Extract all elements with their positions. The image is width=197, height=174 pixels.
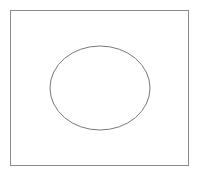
shape-layer (0, 0, 197, 174)
ellipse-shape (50, 46, 150, 130)
diagram-canvas (0, 0, 197, 174)
